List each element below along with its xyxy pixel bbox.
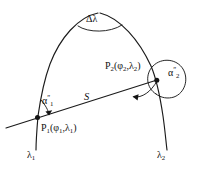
p2-paren-open: (φ <box>114 60 123 71</box>
point-p1-label: P1(φ1,λ1) <box>41 123 77 135</box>
lambda1-label: λ1 <box>27 150 35 162</box>
p2-comma-lambda: ,λ <box>126 60 133 71</box>
p1-comma-lambda: ,λ <box>62 122 69 133</box>
alpha2-label: α″2 <box>168 68 179 80</box>
alpha1-index: 1 <box>50 100 53 107</box>
point-p2-marker <box>154 78 159 83</box>
delta-lambda-arc <box>78 25 122 31</box>
delta-lambda-label: Δλ <box>86 14 97 24</box>
azimuth-arrowhead <box>133 94 139 100</box>
p1-paren-open: (φ <box>50 122 59 133</box>
lambda1-index: 1 <box>32 154 35 161</box>
alpha2-index: 2 <box>176 72 179 79</box>
lambda2-index: 2 <box>162 154 165 161</box>
p2-paren-close: ) <box>137 60 140 71</box>
alpha1-label: α″1 <box>42 96 53 108</box>
p1-paren-close: ) <box>73 122 76 133</box>
diagram-canvas <box>0 0 198 174</box>
lambda2-label: λ2 <box>157 150 165 162</box>
geodesic-length-label: S <box>84 92 89 103</box>
alpha2-angle-arc <box>148 60 186 98</box>
geodesic-diagram: Δλ P2(φ2,λ2) α″2 S α″1 P1(φ1,λ1) λ1 λ2 <box>0 0 198 174</box>
geodesic-line-S <box>6 80 157 128</box>
point-p2-label: P2(φ2,λ2) <box>105 61 141 73</box>
point-p1-marker <box>35 115 40 120</box>
